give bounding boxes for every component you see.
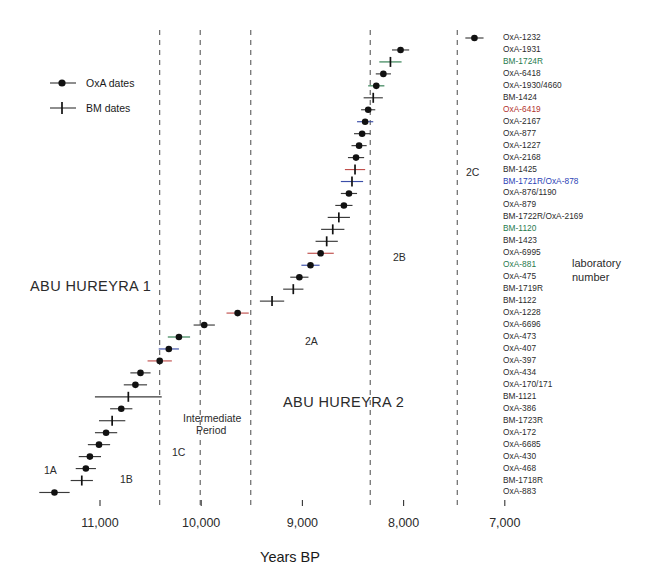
lab-number-label: OxA-170/171 [503, 380, 552, 389]
data-point [79, 453, 101, 460]
data-point [168, 334, 190, 341]
lab-number-label: OxA-1930/4660 [503, 81, 562, 90]
phase-label: 1A [44, 464, 57, 476]
x-axis-title: Years BP [260, 549, 320, 565]
lab-number-label: OxA-883 [503, 487, 536, 496]
lab-number-label: BM-1722R/OxA-2169 [503, 212, 583, 221]
data-point [357, 118, 373, 125]
lab-number-label: BM-1721R/OxA-878 [503, 177, 579, 186]
data-point [159, 346, 179, 353]
lab-number-label: OxA-407 [503, 344, 536, 353]
data-point [328, 212, 350, 222]
data-point [379, 57, 401, 67]
data-point [351, 142, 366, 149]
data-point [88, 441, 110, 448]
x-tick-label: 10,000 [182, 516, 220, 530]
data-point [130, 370, 150, 377]
data-point [283, 284, 303, 294]
lab-number-label: OxA-172 [503, 428, 536, 437]
lab-number-label: OxA-6696 [503, 320, 541, 329]
data-point [341, 177, 363, 187]
data-point [341, 190, 357, 197]
lab-number-label: BM-1724R [503, 57, 543, 66]
annotation-line2: number [572, 271, 609, 284]
lab-number-label: OxA-1227 [503, 141, 541, 150]
data-point [361, 106, 375, 113]
data-point [227, 310, 249, 317]
lab-number-label: OxA-1931 [503, 45, 541, 54]
phase-label: 2C [466, 166, 479, 178]
data-point [316, 236, 338, 246]
lab-number-label: BM-1120 [503, 224, 536, 233]
lab-number-label: OxA-6418 [503, 69, 541, 78]
lab-number-label: OxA-386 [503, 404, 536, 413]
x-tick-label: 7,000 [489, 516, 520, 530]
data-point [39, 489, 69, 496]
data-point [99, 416, 125, 426]
phase-label: 1B [120, 473, 133, 485]
lab-number-label: OxA-879 [503, 200, 536, 209]
lab-number-label: BM-1718R [503, 476, 543, 485]
data-point [260, 296, 284, 306]
lab-number-label: BM-1122 [503, 296, 536, 305]
lab-number-label: OxA-881 [503, 260, 536, 269]
data-point [354, 130, 370, 137]
data-point [465, 35, 483, 42]
data-point [194, 322, 215, 329]
lab-number-label: OxA-6685 [503, 440, 541, 449]
phase-label: 2A [305, 335, 318, 347]
lab-number-label: OxA-434 [503, 368, 536, 377]
data-point [364, 93, 383, 103]
lab-number-label: OxA-397 [503, 356, 536, 365]
phase-label: Intermediate [183, 412, 241, 424]
lab-number-label: OxA-473 [503, 332, 536, 341]
data-point [95, 429, 117, 436]
lab-number-label: OxA-468 [503, 464, 536, 473]
data-point [348, 154, 364, 161]
legend-item-filled-circle: OxA dates [86, 77, 134, 89]
x-tick-label: 9,000 [287, 516, 318, 530]
lab-number-label: BM-1424 [503, 93, 537, 102]
data-point [76, 465, 96, 472]
data-point [392, 47, 409, 54]
lab-number-label: OxA-1232 [503, 33, 541, 42]
lab-number-label: OxA-1228 [503, 308, 541, 317]
lab-number-label: BM-1425 [503, 165, 537, 174]
annotation-line1: laboratory [572, 257, 621, 270]
phase-label: Period [196, 424, 226, 436]
phase-label: ABU HUREYRA 2 [283, 394, 404, 410]
data-point [307, 250, 333, 257]
data-point [71, 476, 93, 486]
lab-number-label: BM-1121 [503, 392, 536, 401]
data-point [95, 392, 162, 402]
data-point [124, 382, 147, 389]
data-point [345, 165, 365, 175]
lab-number-label: BM-1719R [503, 284, 543, 293]
data-point [335, 202, 352, 209]
data-point [148, 358, 172, 365]
radiocarbon-chart: OxA-1232OxA-1931BM-1724ROxA-6418OxA-1930… [0, 0, 661, 580]
legend-item-plus-cross: BM dates [86, 102, 130, 114]
lab-number-label: OxA-2167 [503, 117, 541, 126]
lab-number-label: OxA-877 [503, 129, 536, 138]
data-point [301, 262, 319, 269]
lab-number-label: BM-1723R [503, 416, 543, 425]
lab-number-label: BM-1423 [503, 236, 537, 245]
lab-number-label: OxA-876/1190 [503, 188, 557, 197]
phase-label: 1C [172, 446, 185, 458]
data-point [110, 405, 132, 412]
x-tick-label: 8,000 [388, 516, 419, 530]
lab-number-label: OxA-475 [503, 272, 536, 281]
x-tick-label: 11,000 [81, 516, 118, 530]
data-point [376, 71, 391, 78]
lab-number-label: OxA-6419 [503, 105, 541, 114]
lab-number-label: OxA-2168 [503, 153, 541, 162]
lab-number-label: OxA-6995 [503, 248, 541, 257]
data-point [321, 224, 344, 234]
data-point [290, 274, 308, 281]
phase-label: 2B [393, 251, 406, 263]
phase-label: ABU HUREYRA 1 [30, 278, 151, 294]
lab-number-label: OxA-430 [503, 452, 536, 461]
